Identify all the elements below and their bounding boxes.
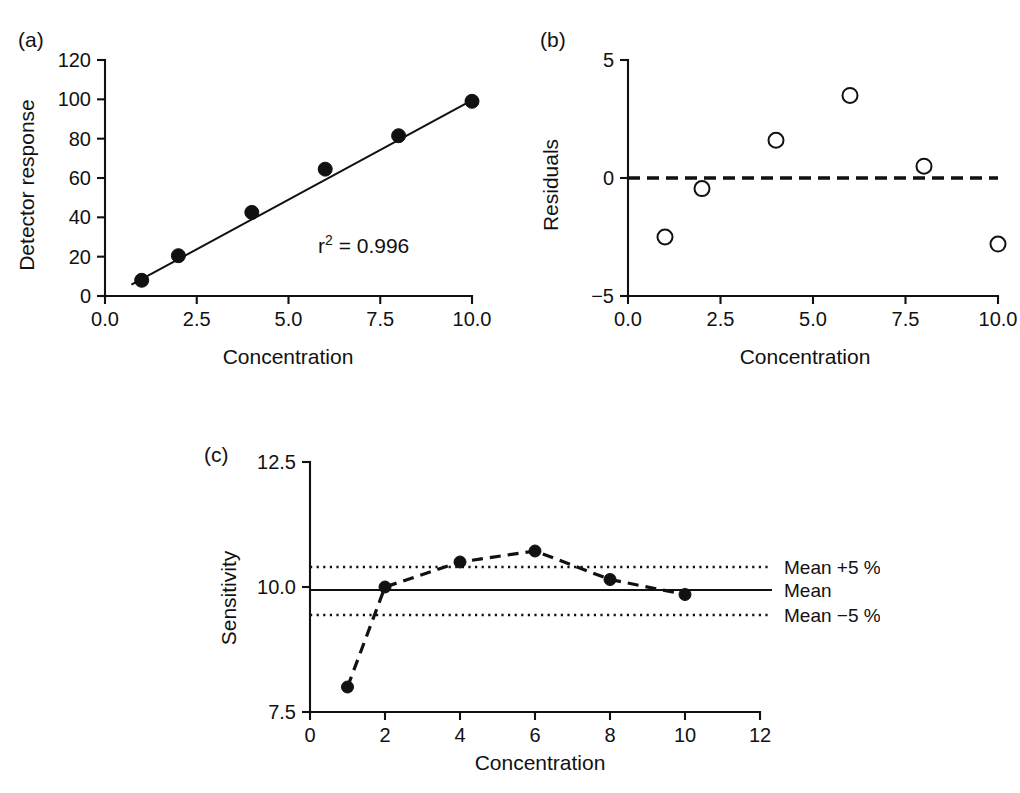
- data-point-open: [991, 237, 1006, 252]
- data-point-open: [917, 159, 932, 174]
- data-point-filled: [529, 545, 541, 557]
- data-point-open: [769, 133, 784, 148]
- panel-a-r-squared-annotation: r2 = 0.996: [318, 232, 409, 257]
- data-point-filled: [245, 205, 259, 219]
- panel-b-y-axis-title: Residuals: [539, 139, 562, 231]
- panel-c-x-axis-title: Concentration: [475, 751, 606, 774]
- x-tick-label: 0: [304, 724, 315, 746]
- data-point-open: [843, 88, 858, 103]
- data-point-filled: [379, 581, 391, 593]
- panel-b-data-points: [658, 88, 1006, 252]
- panel-c: (c) 7.510.012.5 024681012 Mean +5 %MeanM…: [180, 400, 880, 793]
- panel-a-label: (a): [18, 28, 44, 51]
- panel-b-x-tick-labels: 0.02.55.07.510.0: [614, 308, 1017, 330]
- panel-a-y-ticks: [97, 60, 105, 296]
- panel-a-y-tick-labels: 020406080100120: [58, 49, 91, 307]
- y-tick-label: 40: [69, 206, 91, 228]
- panel-a-x-axis-title: Concentration: [223, 345, 354, 368]
- panel-c-reference-lines: [310, 567, 772, 615]
- x-tick-label: 2: [379, 724, 390, 746]
- r-squared-exponent: 2: [325, 232, 333, 248]
- x-tick-label: 0.0: [614, 308, 642, 330]
- x-tick-label: 10: [674, 724, 696, 746]
- x-tick-label: 10.0: [453, 308, 492, 330]
- x-tick-label: 5.0: [275, 308, 303, 330]
- x-tick-label: 2.5: [183, 308, 211, 330]
- y-tick-label: 0: [80, 285, 91, 307]
- y-tick-label: 60: [69, 167, 91, 189]
- panel-b-y-tick-labels: −505: [591, 49, 614, 307]
- x-tick-label: 8: [604, 724, 615, 746]
- x-tick-label: 7.5: [366, 308, 394, 330]
- panel-c-y-ticks: [302, 462, 310, 712]
- y-tick-label: 120: [58, 49, 91, 71]
- panel-a-x-ticks: [105, 296, 472, 304]
- panel-b-x-ticks: [628, 296, 998, 304]
- panel-c-y-tick-labels: 7.510.012.5: [257, 451, 296, 723]
- data-point-filled: [342, 681, 354, 693]
- data-point-filled: [465, 94, 479, 108]
- y-tick-label: 100: [58, 88, 91, 110]
- data-point-filled: [454, 556, 466, 568]
- x-tick-label: 7.5: [892, 308, 920, 330]
- r-squared-value: = 0.996: [333, 234, 409, 257]
- y-tick-label: 5: [603, 49, 614, 71]
- y-tick-label: −5: [591, 285, 614, 307]
- panel-a-x-tick-labels: 0.02.55.07.510.0: [91, 308, 491, 330]
- panel-c-reference-labels: Mean +5 %MeanMean −5 %: [784, 557, 880, 626]
- data-point-filled: [679, 589, 691, 601]
- panel-c-series-line: [348, 551, 686, 687]
- y-tick-label: 12.5: [257, 451, 296, 473]
- x-tick-label: 10.0: [979, 308, 1018, 330]
- y-tick-label: 10.0: [257, 576, 296, 598]
- reference-label-mean: Mean: [784, 580, 832, 601]
- x-tick-label: 2.5: [707, 308, 735, 330]
- x-tick-label: 6: [529, 724, 540, 746]
- r-squared-symbol: r: [318, 234, 325, 257]
- panel-b-x-axis-title: Concentration: [740, 345, 871, 368]
- figure-root: (a) 020406080100120 0.02.55.07.510.0 r2 …: [0, 0, 1020, 793]
- panel-b: (b) −505 0.02.55.07.510.0 Concentration …: [510, 0, 1020, 400]
- data-point-filled: [318, 162, 332, 176]
- panel-b-label: (b): [540, 28, 566, 51]
- x-tick-label: 12: [749, 724, 771, 746]
- panel-a-y-axis-title: Detector response: [15, 99, 38, 271]
- data-point-filled: [392, 129, 406, 143]
- data-point-open: [695, 181, 710, 196]
- panel-c-svg: (c) 7.510.012.5 024681012 Mean +5 %MeanM…: [180, 400, 880, 793]
- data-point-filled: [135, 273, 149, 287]
- panel-c-y-axis-title: Sensitivity: [217, 550, 240, 645]
- panel-c-x-ticks: [310, 712, 760, 720]
- reference-label-lower: Mean −5 %: [784, 605, 880, 626]
- y-tick-label: 80: [69, 128, 91, 150]
- panel-c-x-tick-labels: 024681012: [304, 724, 771, 746]
- data-point-open: [658, 230, 673, 245]
- x-tick-label: 4: [454, 724, 465, 746]
- data-point-filled: [171, 249, 185, 263]
- data-point-filled: [604, 574, 616, 586]
- reference-label-upper: Mean +5 %: [784, 557, 880, 578]
- panel-c-label: (c): [204, 443, 229, 466]
- panel-b-y-ticks: [620, 60, 628, 296]
- panel-b-svg: (b) −505 0.02.55.07.510.0 Concentration …: [510, 0, 1020, 400]
- y-tick-label: 7.5: [268, 701, 296, 723]
- x-tick-label: 0.0: [91, 308, 119, 330]
- x-tick-label: 5.0: [799, 308, 827, 330]
- y-tick-label: 0: [603, 167, 614, 189]
- panel-a: (a) 020406080100120 0.02.55.07.510.0 r2 …: [0, 0, 510, 400]
- y-tick-label: 20: [69, 246, 91, 268]
- panel-a-svg: (a) 020406080100120 0.02.55.07.510.0 r2 …: [0, 0, 510, 400]
